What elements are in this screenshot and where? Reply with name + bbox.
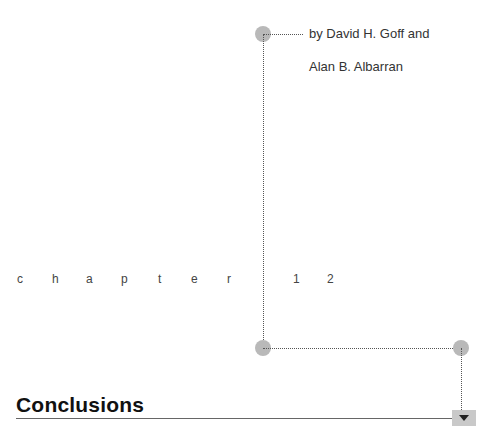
chapter-letter: h xyxy=(52,272,59,286)
connector-line-left xyxy=(263,34,264,348)
connector-line-right xyxy=(461,348,462,410)
chapter-number-digit: 1 xyxy=(293,272,300,286)
chapter-letter: p xyxy=(121,272,128,286)
chapter-letter: t xyxy=(158,272,161,286)
chapter-letter: c xyxy=(17,272,23,286)
author-line-2: Alan B. Albarran xyxy=(309,59,403,75)
section-heading: Conclusions xyxy=(16,393,144,417)
chapter-letter: r xyxy=(227,272,231,286)
down-arrow-icon xyxy=(459,415,469,421)
author-line-1: by David H. Goff and xyxy=(309,26,429,42)
chapter-number-digit: 2 xyxy=(327,272,334,286)
next-section-button[interactable] xyxy=(452,410,476,426)
connector-line-bottom xyxy=(263,348,461,349)
heading-rule xyxy=(16,418,452,419)
chapter-letter: a xyxy=(86,272,93,286)
connector-line-top xyxy=(263,34,303,35)
chapter-letter: e xyxy=(191,272,198,286)
